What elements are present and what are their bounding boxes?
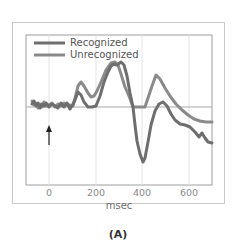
x-tick-label: 0 [46,187,52,198]
onset-arrow-icon [46,125,52,132]
series-unrecognized [32,62,212,122]
figure-caption: (A) [109,228,128,241]
x-tick-label: 400 [133,187,151,198]
x-axis-label: msec [106,200,133,211]
legend-label-recognized: Recognized [70,37,127,48]
x-tick-label: 200 [87,187,105,198]
legend-label-unrecognized: Unrecognized [70,49,139,60]
x-tick-label: 600 [180,187,198,198]
